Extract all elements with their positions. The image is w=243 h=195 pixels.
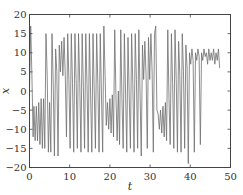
y-tick-label: −5 [12,105,27,116]
x-tick-label: 40 [184,171,197,182]
y-tick-label: 15 [14,28,27,39]
series-line-x-of-t [30,26,220,164]
plot-area [30,26,220,164]
x-tick-label: 0 [26,171,32,182]
x-tick-label: 50 [224,171,237,182]
x-tick-label: 20 [104,171,117,182]
y-tick-label: 10 [14,47,27,58]
y-axis-label: x [0,87,12,94]
y-tick-label: 0 [20,86,26,97]
x-tick-label: 10 [63,171,76,182]
y-tick-label: −15 [5,143,26,154]
line-chart: 01020304050 −20−15−10−505101520 t x [0,0,243,195]
x-axis-label: t [128,180,133,193]
y-tick-label: −20 [5,162,26,173]
y-tick-label: 5 [20,66,26,77]
x-tick-label: 30 [144,171,157,182]
y-tick-label: 20 [14,9,27,20]
y-tick-label: −10 [5,124,26,135]
